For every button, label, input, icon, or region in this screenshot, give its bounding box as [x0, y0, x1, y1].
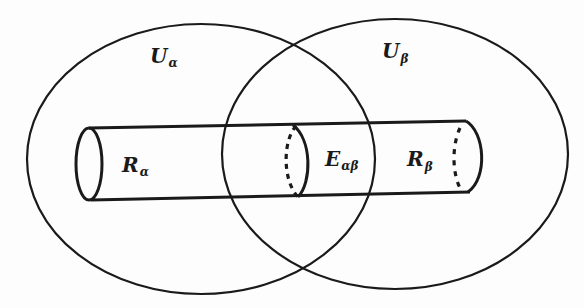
cylinder-top-edge — [89, 121, 466, 128]
section-alpha-beta-solid — [293, 125, 308, 197]
diagram-svg: Uα Uβ Rα Eαβ Rβ — [0, 0, 584, 308]
section-alpha-beta-dashed — [286, 126, 298, 197]
label-r-beta: Rβ — [406, 147, 433, 174]
section-right-dashed — [454, 128, 460, 188]
cylinder-left-end — [76, 128, 102, 200]
label-u-beta: Uβ — [382, 39, 408, 66]
cylinder-right-end — [466, 121, 482, 192]
region-u-alpha-boundary — [27, 24, 375, 294]
label-e-alpha-beta: Eαβ — [324, 147, 358, 173]
label-u-alpha: Uα — [150, 44, 178, 70]
label-r-alpha: Rα — [121, 153, 149, 179]
cylinder-bottom-edge — [91, 192, 470, 200]
diagram-canvas: Uα Uβ Rα Eαβ Rβ — [0, 0, 584, 308]
